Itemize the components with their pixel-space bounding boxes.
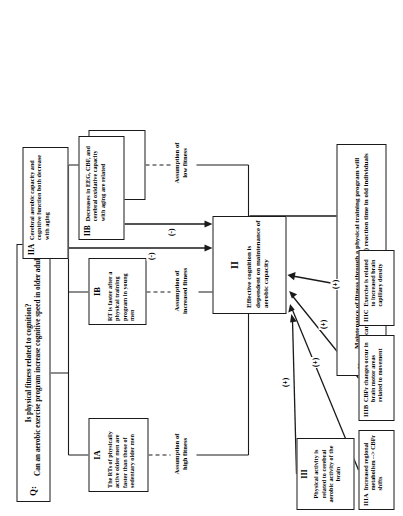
mechanism-box-iiic-text: Exercise is related to increased brain c… [362,254,384,307]
assumption-increased-fitness: Assumption of increased fitness [172,252,188,330]
mechanism-box-iiib-id: IIIB [362,405,369,417]
mechanism-box-iia: IIA Cerebral aerobic capacity and cognit… [22,147,68,259]
evidence-box-ia-text: The RTs of physically active older men a… [105,422,134,488]
assumption-low-fitness: Assumption of low fitness [172,132,188,194]
mechanism-box-iiia-id: IIIA [362,494,369,506]
central-claim-text: Effective cognition is dependent on main… [244,218,269,312]
evidence-box-ia: IA The RTs of physically active older me… [88,418,148,492]
mechanism-box-iiia-text: Increased regional metabolism --> CBFr s… [362,434,384,491]
mechanism-box-iib-id: IIB [83,225,91,236]
mechanism-box-iia-id: IIA [27,244,35,255]
sign-positive-iii: (+) [280,377,289,388]
evidence-box-ib-id: IB [92,287,101,296]
mechanism-box-iiic-id: IIIC [362,310,369,322]
mechanism-box-iiib: IIIB CBFr changes occur in brain motor a… [358,335,394,421]
sign-positive-iiic: (+) [330,279,339,290]
diagram-page: Q: Is physical fitness related to cognit… [0,0,403,516]
mechanism-box-iiib-text: CBFr changes occur in brain motor areas … [362,339,384,402]
sign-positive-iiib: (+) [318,319,327,330]
mechanism-box-iiia: IIIA Increased regional metabolism --> C… [358,430,394,510]
mechanism-box-iib: IIB Decreases in EEG, CBF, and cerebral … [78,136,124,240]
central-claim-id: II [229,261,240,269]
central-claim-box: II Effective cognition is dependent on m… [212,216,286,314]
mechanism-box-iib-text: Decreases in EEG, CBF, and cerebral oxid… [83,140,105,221]
mechanism-box-iii-text: Physical activity is related to cerebral… [311,442,340,506]
flowchart-canvas: Q: Is physical fitness related to cognit… [0,0,403,516]
evidence-box-ib-text: RT is faster after a physical training p… [105,262,134,321]
evidence-box-ib: IB RT is faster after a physical trainin… [88,258,146,325]
evidence-box-ia-id: IA [92,450,101,459]
question-box: Q: Is physical fitness related to cognit… [16,244,50,502]
mechanism-box-iia-text: Cerebral aerobic capacity and cognitive … [27,151,49,240]
sign-positive-iiia: (+) [310,357,319,368]
sign-negative-iib: (-) [166,228,175,238]
assumption-high-fitness: Assumption of high fitness [172,419,188,489]
question-box-id: Q: [28,486,37,496]
question-box-text: Is physical fitness related to cognition… [24,248,43,478]
mechanism-box-iii-id: III [300,469,308,478]
mechanism-box-iiic: IIIC Exercise is related to increased br… [358,250,394,326]
mechanism-box-iii: III Physical activity is related to cere… [296,438,354,510]
sign-negative-iia: (-) [146,252,155,262]
